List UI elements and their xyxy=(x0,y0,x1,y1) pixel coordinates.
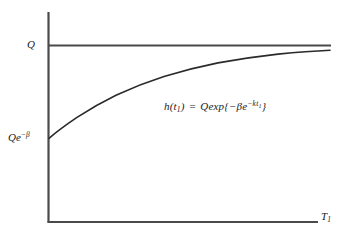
curve-equation-annotation: h(t1)=Qexp{−βe−kt1} xyxy=(164,100,266,114)
x-axis-label-t1: T1 xyxy=(321,211,331,224)
chart-plot-area xyxy=(0,0,343,250)
figure-container: Q Qe−β T1 h(t1)=Qexp{−βe−kt1} xyxy=(0,0,343,250)
eq-equals: = xyxy=(189,100,197,112)
label-qe-base: Qe xyxy=(8,131,21,143)
growth-curve xyxy=(49,50,330,138)
y-axis-label-q: Q xyxy=(27,39,35,50)
eq-brace-close: } xyxy=(262,100,267,112)
label-t-subscript: 1 xyxy=(327,215,331,224)
y-axis-label-qe-beta: Qe−β xyxy=(8,131,30,143)
eq-close-paren: ) xyxy=(181,100,185,112)
eq-minus: − xyxy=(229,100,237,112)
label-q-text: Q xyxy=(27,38,35,50)
label-qe-exponent: −β xyxy=(21,130,30,139)
eq-exp: exp xyxy=(208,100,224,112)
